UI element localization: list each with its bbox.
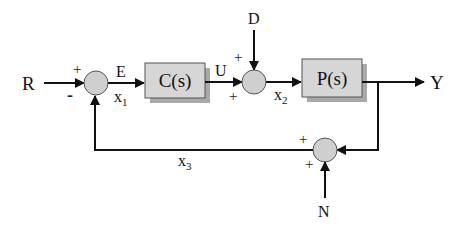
sum3-bottom-plus-sign: + <box>305 156 313 172</box>
sum1-minus-sign: - <box>67 85 73 105</box>
state-x1-label: x1 <box>114 88 128 108</box>
summing-junction-3 <box>313 138 337 162</box>
controller-label: C(s) <box>159 70 192 92</box>
signal-e-label: E <box>116 63 126 80</box>
sum1-plus-sign: + <box>73 61 81 77</box>
signal-d-label: D <box>248 10 260 27</box>
sum2-bottom-plus-sign: + <box>229 88 237 104</box>
state-x3-label: x3 <box>178 152 192 172</box>
sum2-top-plus-sign: + <box>234 49 242 65</box>
summing-junction-2 <box>242 70 266 94</box>
signal-u-label: U <box>215 62 227 79</box>
feedback-x3-wire <box>95 96 313 150</box>
block-diagram: R + - E x1 C(s) U D + + x2 P(s) Y + + N … <box>0 0 463 228</box>
sum3-top-plus-sign: + <box>299 131 307 147</box>
summing-junction-1 <box>84 71 108 95</box>
signal-y-label: Y <box>430 72 444 93</box>
signal-r-label: R <box>22 73 35 94</box>
plant-label: P(s) <box>317 68 348 90</box>
state-x2-label: x2 <box>274 86 288 106</box>
signal-n-label: N <box>318 203 330 220</box>
